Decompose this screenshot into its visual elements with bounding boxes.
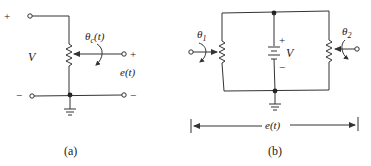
output-plus-sign: + — [130, 48, 136, 60]
left-lower-wire — [222, 63, 224, 91]
bottom-left-terminal-icon — [30, 94, 34, 98]
left-terminal-icon — [189, 50, 193, 54]
left-potentiometer-icon — [219, 41, 225, 63]
ground-icon — [64, 109, 76, 115]
bottom-left-minus-sign: − — [16, 89, 22, 101]
output-voltage-label: e(t) — [120, 66, 136, 79]
bottom-wire — [34, 95, 122, 96]
angle-label-theta-c: θc(t) — [85, 30, 105, 45]
right-angle-label-theta-2: θ2 — [342, 25, 351, 40]
source-voltage-label: V — [28, 50, 37, 64]
battery-lower-wire — [274, 59, 275, 91]
right-terminal-icon — [355, 47, 359, 51]
left-angle-label-theta-1: θ1 — [197, 28, 206, 43]
right-potentiometer-icon — [326, 40, 332, 62]
output-voltage-label-b: e(t) — [265, 119, 281, 132]
output-plus-terminal-icon — [122, 52, 126, 56]
battery-voltage-label: V — [286, 46, 295, 60]
top-terminal-icon — [28, 14, 32, 18]
potentiometer-resistor-icon — [66, 44, 72, 66]
output-minus-sign: − — [130, 89, 136, 101]
panel-a-caption: (a) — [64, 144, 77, 158]
battery-icon — [268, 47, 280, 59]
battery-plus-sign: + — [279, 34, 285, 46]
top-terminal-plus-sign: + — [4, 10, 10, 22]
circuit-figure: + + θc(t) V e(t) − − (a) — [0, 0, 371, 166]
panel-b-caption: (b) — [268, 144, 282, 158]
panel-a-potentiometer-circuit: + + θc(t) V e(t) − − (a) — [4, 10, 136, 158]
ground-icon-b — [269, 104, 281, 110]
panel-b-bridge-circuit: θ1 + V − θ2 — [189, 11, 359, 158]
output-minus-terminal-icon — [122, 93, 126, 97]
battery-minus-sign: − — [279, 61, 285, 73]
